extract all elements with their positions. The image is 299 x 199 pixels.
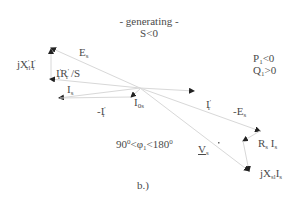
slip-condition: S<0 [84,28,214,39]
IrRrS-tail: /S [68,67,80,79]
q-symbol: Q [253,64,261,76]
p-relation: <0 [263,52,275,64]
dot-marker [218,142,220,144]
angle-left: 90 [116,138,127,150]
angle-condition: 900<φ1<1800 [116,137,173,154]
negEs-sub: s [243,111,246,119]
label-I0s: I0s [134,97,144,112]
label-negEs: -Es [233,106,246,121]
angle-deg2: 0 [169,138,173,146]
jXsIs-tail-sub: s [279,173,282,181]
Is-sub: s [71,89,74,97]
label-negIr: -I'r [97,104,105,121]
label-jXrIr: jX'rlI'r [17,57,35,74]
mode-title: - generating - [84,16,214,27]
Es-sub: s [86,52,89,60]
q-condition: Q1>0 [253,65,276,80]
label-Is: Is [67,84,73,99]
label-RsIs: Rs Is [258,138,277,153]
figure-caption: b.) [137,180,149,191]
label-Es: Es [79,47,88,62]
I0s-sub: 0s [138,102,144,110]
label-Vs: Vs [198,144,209,159]
jXrIr-tail-sub: r [32,64,34,72]
Es-main: E [79,46,86,58]
label-IrRrS: I'rR'r /S [56,66,80,83]
angle-right: <180 [147,138,170,150]
RsIs-tail-sub: s [275,143,278,151]
Vs-sub: s [206,149,209,157]
jXsIs-main: jX [260,167,271,179]
negIr-sub: r [103,111,105,119]
label-jXsIs: jXslIs [260,168,282,183]
angle-mid: <φ [131,138,144,150]
Ir-sub: r [208,104,210,112]
negEs-main: -E [233,105,243,117]
phasor-Vs [140,88,249,171]
label-Ir: I'r [206,97,210,114]
q-relation: >0 [264,64,276,76]
phasor-diagram: - generating - S<0 P1<0 Q1>0 Es jX'rlI'r… [0,0,299,199]
Vs-main: V [198,143,206,155]
